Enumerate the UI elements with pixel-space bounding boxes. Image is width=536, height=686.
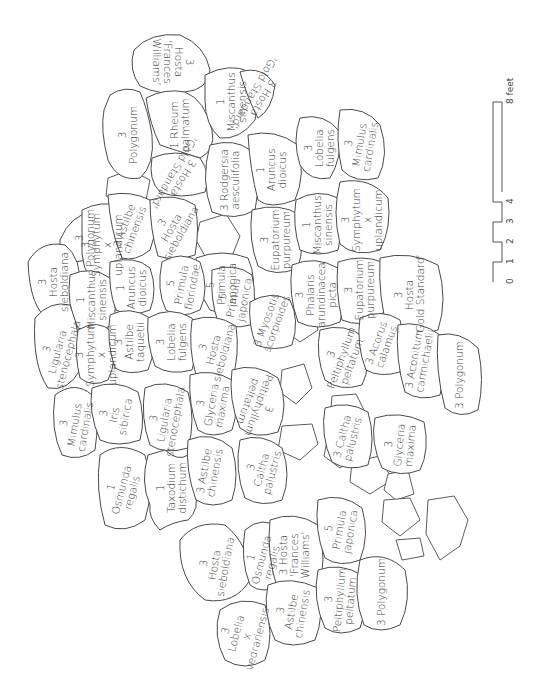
bed-label-b7: 3 Rodgersiaaesculifolia <box>218 149 241 211</box>
scale-tick-8-feet: 8 feet <box>505 77 515 104</box>
bed-label-b36: 3 Polygonum <box>453 341 465 409</box>
bed-label-b55: 3 Polygonum <box>375 558 387 626</box>
scale-tick-1: 1 <box>505 258 515 264</box>
scale-tick-4: 4 <box>505 198 515 204</box>
scale-tick-2: 2 <box>505 238 515 244</box>
garden-plan-canvas: 3Hosta'FrancesWilliams'3Polygonum1 Rheum… <box>0 0 536 686</box>
scale-bar: 0 1 2 3 4 8 feet <box>493 77 515 284</box>
bed-label-b50: 3 Hosta'FrancesWilliams' <box>277 532 311 579</box>
garden-plan-drawing: 3Hosta'FrancesWilliams'3Polygonum1 Rheum… <box>0 0 536 686</box>
scale-tick-3: 3 <box>505 218 515 224</box>
scale-tick-0: 0 <box>505 278 515 284</box>
